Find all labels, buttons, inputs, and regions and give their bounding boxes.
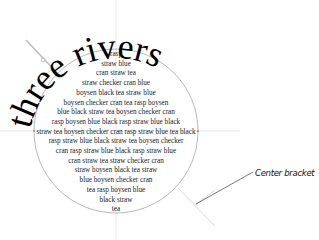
body-line: cran straw tea straw checker cran <box>16 157 216 167</box>
body-line: rasp <box>16 50 216 60</box>
body-line: rasp boysen blue black rasp straw blue b… <box>16 118 216 128</box>
body-line: black straw <box>16 196 216 206</box>
body-line: straw tea boysen checker cran rasp straw… <box>16 128 216 138</box>
body-line: boysen checker cran tea rasp boysen <box>16 99 216 109</box>
type-on-path-diagram: three rivers raspstraw bluecran straw te… <box>0 0 319 240</box>
body-line: straw boysen black tea straw <box>16 166 216 176</box>
body-line: blue black straw tea boysen checker cran <box>16 108 216 118</box>
body-line: straw checker cran blue <box>16 79 216 89</box>
body-line: blue boysen checker cran <box>16 176 216 186</box>
body-line: cran rasp straw blue black rasp straw bl… <box>16 147 216 157</box>
body-line: boysen black tea straw blue <box>16 89 216 99</box>
body-paragraph[interactable]: raspstraw bluecran straw teastraw checke… <box>16 50 216 215</box>
body-line: rasp straw blue black straw tea boysen c… <box>16 137 216 147</box>
body-line: tea rasp boysen blue <box>16 186 216 196</box>
center-bracket-label: Center bracket <box>255 168 314 178</box>
body-line: straw blue <box>16 60 216 70</box>
body-line: cran straw tea <box>16 69 216 79</box>
body-line: tea <box>16 205 216 215</box>
